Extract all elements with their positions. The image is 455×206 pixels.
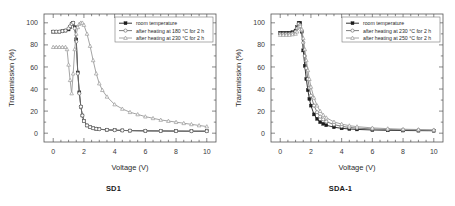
data-point — [309, 85, 313, 88]
data-point — [144, 129, 147, 132]
data-point — [98, 128, 101, 131]
data-point — [113, 129, 116, 132]
data-point — [190, 122, 194, 125]
x-tick-label: 10 — [430, 148, 438, 155]
data-point — [64, 29, 67, 32]
data-point — [92, 127, 95, 130]
data-point — [371, 126, 375, 129]
chart-panel-sda-1: 0246810020406080100Voltage (V)Transmissi… — [227, 0, 454, 206]
y-tick-label: 20 — [257, 108, 265, 115]
x-tick-label: 2 — [82, 148, 86, 155]
data-point — [174, 129, 177, 132]
legend-marker — [124, 22, 127, 25]
data-point — [85, 124, 88, 127]
data-point — [55, 30, 58, 33]
data-point — [73, 47, 77, 50]
data-point — [81, 114, 84, 117]
x-tick-label: 8 — [174, 148, 178, 155]
data-point — [167, 119, 171, 122]
legend-marker — [124, 29, 127, 32]
x-axis-title: Voltage (V) — [111, 163, 149, 172]
y-tick-label: 80 — [257, 41, 265, 48]
x-tick-label: 6 — [143, 148, 147, 155]
y-axis-title: Transmission (%) — [234, 48, 243, 107]
y-axis-title: Transmission (%) — [7, 48, 16, 107]
data-point — [309, 94, 312, 97]
data-point — [197, 124, 201, 127]
data-point — [70, 92, 74, 95]
data-point — [82, 119, 85, 122]
data-point — [76, 72, 79, 75]
chart-panel-sd1: 0246810020406080100Voltage (V)Transmissi… — [0, 0, 227, 206]
x-tick-label: 0 — [278, 148, 282, 155]
y-tick-label: 80 — [30, 41, 38, 48]
data-point — [315, 104, 319, 107]
legend-label: after heating at 230 °C for 2 h — [363, 28, 431, 34]
data-point — [340, 122, 344, 125]
data-point — [121, 129, 124, 132]
x-tick-label: 4 — [113, 148, 117, 155]
data-point — [151, 116, 155, 119]
data-point — [88, 126, 91, 129]
data-point — [101, 88, 105, 91]
data-point — [121, 107, 125, 110]
legend: room temperatureafter heating at 230 °C … — [342, 17, 440, 42]
x-axis-title: Voltage (V) — [338, 163, 376, 172]
data-point — [71, 72, 75, 75]
data-point — [79, 105, 82, 108]
data-point — [72, 21, 75, 24]
data-point — [386, 127, 390, 130]
data-point — [348, 124, 352, 127]
panel-caption-sd1: SD1 — [0, 184, 227, 193]
data-point — [58, 30, 61, 33]
data-point — [332, 120, 336, 123]
data-point — [95, 127, 98, 130]
chart-svg-sd1: 0246810020406080100Voltage (V)Transmissi… — [0, 0, 227, 180]
legend-label: room temperature — [363, 20, 404, 26]
data-point — [159, 118, 163, 121]
data-point — [76, 25, 80, 28]
data-point — [128, 129, 131, 132]
data-point — [91, 58, 95, 61]
data-point — [312, 96, 316, 99]
y-tick-label: 60 — [257, 64, 265, 71]
data-point — [68, 78, 72, 81]
y-tick-label: 0 — [34, 130, 38, 137]
legend-marker — [351, 29, 354, 32]
x-tick-label: 2 — [309, 148, 313, 155]
data-point — [174, 120, 178, 123]
chart-svg-sda-1: 0246810020406080100Voltage (V)Transmissi… — [227, 0, 454, 180]
data-point — [190, 130, 193, 133]
x-tick-label: 4 — [340, 148, 344, 155]
data-point — [94, 72, 98, 75]
data-point — [78, 92, 81, 95]
data-point — [322, 122, 325, 125]
data-point — [159, 129, 162, 132]
data-point — [144, 115, 148, 118]
data-point — [52, 30, 55, 33]
y-tick-label: 0 — [261, 130, 265, 137]
panel-caption-sda-1: SDA-1 — [227, 184, 454, 193]
y-tick-label: 100 — [26, 19, 38, 26]
legend-label: after heating at 230 °C for 2 h — [136, 35, 204, 41]
plot-area-sd1: 0246810020406080100Voltage (V)Transmissi… — [0, 0, 227, 180]
data-point — [308, 97, 311, 100]
x-tick-label: 10 — [203, 148, 211, 155]
y-tick-label: 40 — [30, 86, 38, 93]
data-point — [61, 30, 64, 33]
data-point — [309, 104, 312, 107]
data-point — [105, 128, 108, 131]
data-point — [355, 125, 359, 128]
data-point — [325, 120, 328, 123]
data-point — [182, 121, 186, 124]
data-point — [88, 44, 92, 47]
data-point — [205, 125, 209, 128]
data-point — [325, 124, 328, 127]
data-point — [316, 117, 319, 120]
legend-label: after heating at 250 °C for 2 h — [363, 35, 431, 41]
x-tick-label: 8 — [401, 148, 405, 155]
data-point — [417, 128, 421, 131]
data-point — [128, 110, 132, 113]
legend: room temperatureafter heating at 180 °C … — [115, 17, 213, 42]
data-point — [319, 121, 322, 124]
